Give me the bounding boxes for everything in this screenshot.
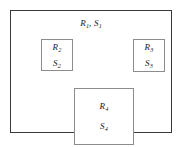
- region-r2-label-region-subscript: 2: [58, 46, 61, 53]
- region-outer-r1: R1, S1 R2 S2 R3 S3 R4 S4: [10, 10, 172, 133]
- region-r4-label-region-subscript: 4: [105, 105, 108, 112]
- region-r2-label-region: R2: [53, 43, 62, 52]
- region-r4-label-set-subscript: 4: [105, 125, 108, 132]
- region-r3-label-region: R3: [145, 43, 154, 52]
- region-inner-r3: R3 S3: [133, 39, 165, 72]
- region-r2-label-set-subscript: 2: [58, 62, 61, 69]
- region-r4-label-region: R4: [100, 102, 109, 111]
- region-inner-r4: R4 S4: [74, 88, 134, 145]
- region-r3-label-set: S3: [145, 59, 153, 68]
- region-r3-label-region-subscript: 3: [150, 46, 153, 53]
- region-diagram: R1, S1 R2 S2 R3 S3 R4 S4: [0, 0, 183, 147]
- region-inner-r2: R2 S2: [41, 39, 73, 71]
- region-r3-label-set-subscript: 3: [150, 62, 153, 69]
- region-outer-label-set-subscript: 1: [99, 22, 102, 29]
- region-outer-label: R1, S1: [11, 19, 171, 28]
- region-outer-label-region-subscript: 1: [86, 22, 89, 29]
- region-outer-label-set: S: [94, 18, 99, 28]
- region-r2-label-set: S2: [53, 59, 61, 68]
- region-r4-label-set: S4: [100, 122, 108, 131]
